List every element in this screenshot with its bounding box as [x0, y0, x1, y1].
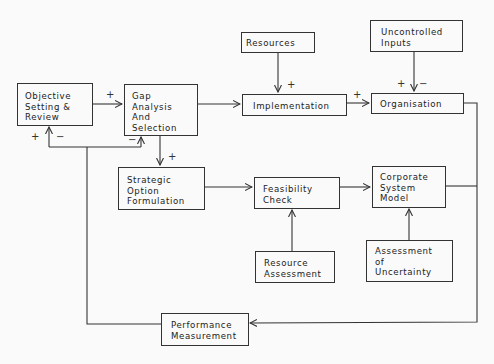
sign-gap-to-strategic: +	[168, 152, 176, 162]
node-uncontrolled-inputs: Uncontrolled Inputs	[370, 20, 463, 52]
node-gap-analysis: Gap Analysis And Selection	[124, 84, 198, 136]
node-performance-measurement: Performance Measurement	[161, 313, 249, 346]
node-resource-assessment: Resource Assessment	[255, 251, 335, 283]
sign-implementation-to-organisation: +	[353, 90, 361, 100]
sign-feedback-objective-plus: +	[31, 132, 39, 142]
node-implementation: Implementation	[242, 94, 347, 116]
sign-uncontrolled-plus: +	[397, 79, 405, 89]
sign-resources-to-implementation: +	[287, 80, 295, 90]
node-resources: Resources	[241, 32, 315, 53]
sign-objective-to-gap: +	[106, 90, 114, 100]
node-objective-setting: Objective Setting & Review	[17, 83, 93, 126]
arrow-organisation-to-performance	[250, 103, 477, 323]
node-corporate-system-model: Corporate System Model	[372, 166, 446, 208]
sign-feedback-gap-minus: −	[128, 135, 136, 145]
node-feasibility-check: Feasibility Check	[254, 177, 340, 209]
sign-feedback-objective-minus: −	[56, 132, 64, 142]
node-assessment-of-uncertainty: Assessment of Uncertainty	[366, 240, 453, 282]
node-strategic-option: Strategic Option Formulation	[118, 167, 205, 210]
sign-uncontrolled-minus: −	[419, 79, 427, 89]
node-organisation: Organisation	[371, 93, 464, 114]
